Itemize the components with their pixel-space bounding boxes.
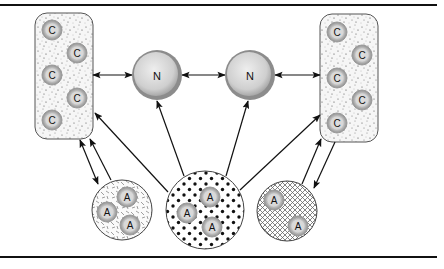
right-c-compartment: CCCCC [320,14,378,142]
c-molecule: C [352,90,372,110]
c-molecule: C [327,22,347,42]
a-molecule: A [200,187,220,207]
a-molecule-label: A [295,221,302,232]
a-molecule-label: A [104,207,111,218]
left-box-left-pool-exchange-arrow [80,140,98,184]
c-molecule: C [42,65,62,85]
c-compartments: CCCCCCCCCC [35,13,378,142]
c-molecule-label: C [333,73,340,84]
a-pools: AAAAAAAA [92,171,317,249]
a-molecule: A [177,203,197,223]
c-molecule-label: C [73,48,80,59]
c-molecule-label: C [48,115,55,126]
a-molecule-label: A [124,192,131,203]
center-to-right-box-arrow [240,115,320,190]
c-molecule-label: C [48,70,55,81]
a-molecule-label: A [207,192,214,203]
a-molecule-label: A [209,222,216,233]
a-molecule-label: A [184,208,191,219]
left-pool-to-left-box-arrow [90,139,111,180]
a-molecule: A [288,216,308,236]
c-molecule: C [327,68,347,88]
center-to-left-box-arrow [95,113,168,192]
c-molecule-label: C [358,50,365,61]
a-molecule-label: A [127,220,134,231]
c-molecule: C [42,110,62,130]
n-node: N [225,50,275,100]
a-molecule: A [97,202,117,222]
c-molecule: C [352,45,372,65]
c-molecule-label: C [333,27,340,38]
center-to-n1-arrow [157,101,184,176]
n-node: N [132,50,182,100]
c-molecule: C [67,43,87,63]
a-molecule: A [202,217,222,237]
a-molecule-label: A [271,195,278,206]
right-pool-to-right-box-arrow [302,139,321,184]
n-node-label: N [246,70,254,82]
c-molecule-label: C [73,93,80,104]
center-a-pool: AAA [166,171,244,249]
c-molecule: C [42,20,62,40]
a-molecule: A [117,187,137,207]
c-molecule-label: C [48,25,55,36]
right-a-pool: AA [257,181,317,241]
a-molecule: A [264,190,284,210]
center-to-n2-arrow [226,101,248,176]
left-c-compartment: CCCCC [35,13,93,139]
n-node-label: N [153,70,161,82]
left-a-pool: AAA [92,180,152,240]
c-molecule: C [67,88,87,108]
a-molecule: A [120,215,140,235]
c-molecule: C [327,113,347,133]
compartment-diagram: CCCCCCCCCC AAAAAAAA NN [0,0,444,269]
c-molecule-label: C [358,95,365,106]
c-molecule-label: C [333,118,340,129]
